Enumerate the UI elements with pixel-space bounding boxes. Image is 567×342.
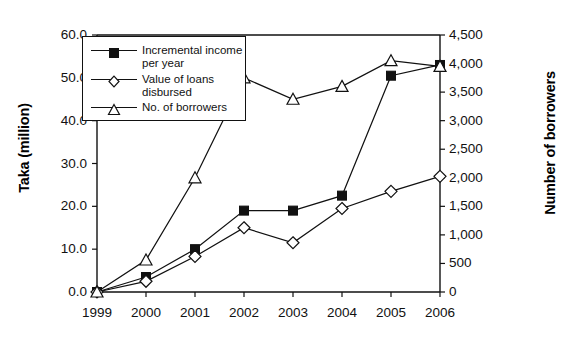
x-axis-tick-label: 2004	[315, 305, 369, 320]
data-point-marker-open-triangle	[385, 55, 397, 66]
legend-item-incremental-income: Incremental income per year	[91, 44, 242, 70]
y-axis-left-tick-label: 50.0	[39, 70, 87, 85]
data-point-marker-open-diamond	[287, 237, 299, 249]
data-point-marker-open-diamond	[336, 202, 348, 214]
legend-marker-open-diamond	[91, 73, 137, 87]
chart-legend: Incremental income per year Value of loa…	[82, 36, 246, 121]
y-axis-left-tick-label: 30.0	[39, 156, 87, 171]
data-point-marker-open-diamond	[385, 185, 397, 197]
y-axis-right-tick-label: 1,000	[449, 227, 499, 242]
data-point-marker-open-diamond	[434, 170, 446, 182]
data-point-marker-open-triangle	[140, 254, 152, 265]
y-axis-left-tick-label: 0.0	[39, 284, 87, 299]
y-axis-right-tick-label: 500	[449, 255, 499, 270]
y-axis-right-tick-label: 2,000	[449, 170, 499, 185]
y-axis-right-tick-label: 0	[449, 284, 499, 299]
legend-label-no-of-borrowers: No. of borrowers	[142, 101, 227, 114]
legend-label-incremental-income: Incremental income per year	[142, 44, 242, 70]
legend-marker-open-triangle	[91, 101, 137, 115]
x-axis-tick-label: 2003	[266, 305, 320, 320]
legend-marker-filled-square	[91, 44, 137, 58]
legend-label-value-of-loans: Value of loans disbursed	[142, 73, 214, 99]
legend-item-value-of-loans: Value of loans disbursed	[91, 73, 214, 99]
y-axis-right-tick-label: 3,500	[449, 84, 499, 99]
data-point-marker-open-diamond	[238, 222, 250, 234]
y-axis-left-tick-label: 20.0	[39, 198, 87, 213]
data-point-marker-filled-square	[289, 206, 298, 215]
data-point-marker-filled-square	[338, 191, 347, 200]
data-point-marker-open-triangle	[336, 80, 348, 91]
y-axis-right-tick-label: 4,000	[449, 56, 499, 71]
x-axis-tick-label: 2005	[364, 305, 418, 320]
x-axis-tick-label: 2001	[168, 305, 222, 320]
legend-item-no-of-borrowers: No. of borrowers	[91, 101, 227, 115]
y-axis-left-tick-label: 60.0	[39, 27, 87, 42]
x-axis-tick-label: 1999	[70, 305, 124, 320]
y-axis-left-tick-label: 40.0	[39, 113, 87, 128]
chart-container: Taka (million) Number of borrowers 0.010…	[0, 0, 567, 342]
x-axis-tick-label: 2000	[119, 305, 173, 320]
data-point-marker-open-triangle	[189, 172, 201, 183]
y-axis-left-tick-label: 10.0	[39, 241, 87, 256]
data-point-marker-filled-square	[240, 206, 249, 215]
y-axis-right-tick-label: 1,500	[449, 198, 499, 213]
data-point-marker-filled-square	[387, 71, 396, 80]
y-axis-right-tick-label: 3,000	[449, 113, 499, 128]
y-axis-right-tick-label: 2,500	[449, 141, 499, 156]
x-axis-tick-label: 2002	[217, 305, 271, 320]
y-axis-right-tick-label: 4,500	[449, 27, 499, 42]
x-axis-tick-label: 2006	[413, 305, 467, 320]
